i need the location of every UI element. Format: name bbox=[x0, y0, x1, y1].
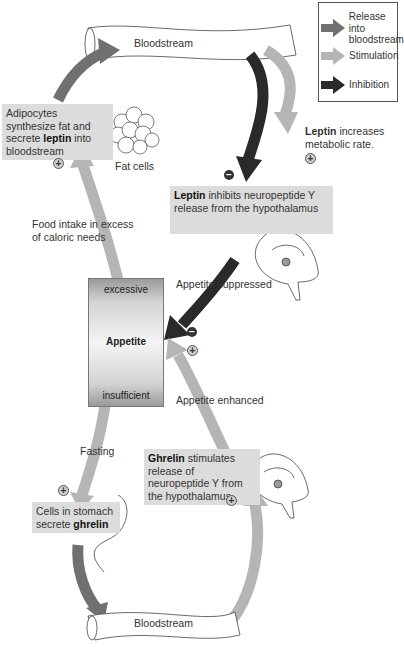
fat-cells-label: Fat cells bbox=[115, 160, 154, 173]
inhibition-arrow-appetite-suppressed bbox=[182, 260, 235, 325]
appetite-meter: excessive Appetite insufficient bbox=[88, 278, 164, 407]
stimulation-arrow-icon bbox=[321, 47, 345, 65]
appetite-title: Appetite bbox=[89, 336, 163, 347]
fasting-label: Fasting bbox=[80, 445, 114, 458]
inhibition-arrow-leptin bbox=[248, 55, 263, 160]
leptin-inhibits-box: Leptin inhibits neuropeptide Y release f… bbox=[170, 186, 333, 234]
legend: Release intobloodstream Stimulation Inhi… bbox=[318, 2, 398, 102]
food-intake-label: Food intake in excess of caloric needs bbox=[32, 218, 137, 243]
bottom-bloodstream-label: Bloodstream bbox=[134, 617, 193, 629]
plus-sign-icon: + bbox=[187, 345, 198, 356]
stomach-cells-box: Cells in stomach secrete ghrelin bbox=[32, 502, 120, 533]
ghrelin-stimulates-box: Ghrelin stimulates release of neuropepti… bbox=[144, 449, 260, 505]
plus-sign-icon: + bbox=[305, 153, 316, 164]
leptin-metabolic-label: Leptin increases metabolic rate. bbox=[305, 125, 399, 150]
plus-sign-icon: + bbox=[226, 495, 237, 506]
top-bloodstream-label: Bloodstream bbox=[134, 37, 193, 49]
legend-item-release: Release intobloodstream bbox=[321, 11, 404, 46]
appetite-excessive-label: excessive bbox=[89, 284, 163, 295]
legend-item-inhibition: Inhibition bbox=[321, 76, 389, 94]
appetite-insufficient-label: insufficient bbox=[89, 390, 163, 401]
fat-cells-illustration bbox=[110, 107, 159, 154]
minus-sign-icon: − bbox=[187, 327, 197, 337]
minus-sign-icon: − bbox=[224, 170, 234, 180]
appetite-suppressed-label: Appetite suppressed bbox=[176, 278, 272, 291]
release-arrow-ghrelin bbox=[78, 545, 98, 610]
release-arrow-icon bbox=[321, 19, 345, 37]
stimulation-arrow-metabolic bbox=[266, 50, 290, 115]
inhibition-arrow-icon bbox=[321, 76, 345, 94]
adipocytes-box: Adipocytes synthesize fat and secrete le… bbox=[2, 104, 113, 160]
legend-item-stimulation: Stimulation bbox=[321, 47, 398, 65]
stimulation-arrow-ghrelin bbox=[232, 505, 258, 620]
appetite-enhanced-label: Appetite enhanced bbox=[176, 394, 264, 407]
plus-sign-icon: + bbox=[58, 485, 69, 496]
plus-sign-icon: + bbox=[53, 158, 64, 169]
release-arrow-leptin bbox=[58, 52, 105, 100]
